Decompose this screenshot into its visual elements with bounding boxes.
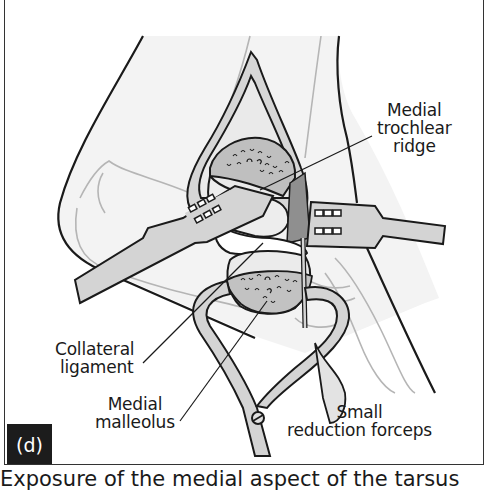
label-small-reduction-forceps: Small reduction forceps bbox=[287, 403, 432, 439]
deep-tissue bbox=[287, 173, 310, 243]
label-line: reduction forceps bbox=[287, 421, 432, 439]
label-line: Medial bbox=[95, 395, 175, 413]
label-line: Collateral bbox=[55, 340, 134, 358]
label-line: Small bbox=[287, 403, 432, 421]
label-medial-trochlear-ridge: Medial trochlear ridge bbox=[377, 101, 452, 155]
tarsus-surgery-illustration bbox=[5, 0, 484, 465]
label-line: trochlear bbox=[377, 119, 452, 137]
label-collateral-ligament: Collateral ligament bbox=[55, 340, 134, 376]
label-line: ligament bbox=[55, 358, 134, 376]
label-line: ridge bbox=[377, 137, 452, 155]
label-line: malleolus bbox=[95, 413, 175, 431]
medial-malleolus-bone bbox=[227, 251, 312, 314]
label-line: Medial bbox=[377, 101, 452, 119]
panel-label-badge: (d) bbox=[7, 424, 52, 465]
figure-frame: Medial trochlear ridge Collateral ligame… bbox=[4, 0, 484, 465]
label-medial-malleolus: Medial malleolus bbox=[95, 395, 175, 431]
figure-caption: Exposure of the medial aspect of the tar… bbox=[0, 468, 459, 490]
